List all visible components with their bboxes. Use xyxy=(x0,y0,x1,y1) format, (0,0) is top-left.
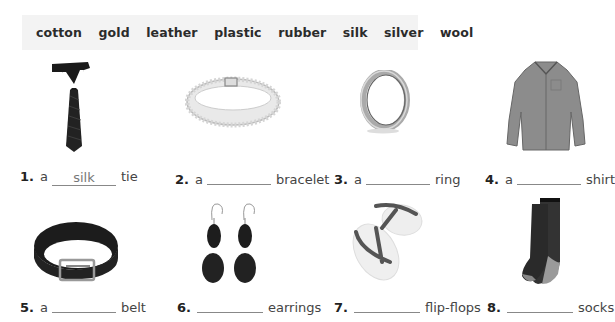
answer-blank[interactable] xyxy=(207,170,271,185)
item-number: 6. xyxy=(177,300,191,315)
word-bank-item: silver xyxy=(384,25,423,40)
item-number: 2. xyxy=(175,172,189,187)
item-article: a xyxy=(505,172,513,187)
belt-icon xyxy=(32,218,124,292)
word-bank-item: rubber xyxy=(278,25,326,40)
answer-blank[interactable] xyxy=(507,298,573,313)
answer-blank[interactable] xyxy=(52,298,116,313)
item-noun: bracelet xyxy=(276,172,329,187)
answer-blank[interactable] xyxy=(197,298,263,313)
item-number: 8. xyxy=(487,300,501,315)
ring-icon xyxy=(358,70,414,140)
item-noun: earrings xyxy=(268,300,321,315)
item-noun: tie xyxy=(121,169,138,184)
shirt-icon xyxy=(505,60,587,156)
word-bank-item: silk xyxy=(343,25,368,40)
flip-flops-icon xyxy=(346,200,428,288)
item-noun: belt xyxy=(121,300,146,315)
word-bank-item: leather xyxy=(146,25,197,40)
item-article: a xyxy=(354,172,362,187)
item-article: a xyxy=(195,172,203,187)
item-article: a xyxy=(40,300,48,315)
bracelet-icon xyxy=(185,76,281,132)
word-bank: cotton gold leather plastic rubber silk … xyxy=(22,15,418,50)
item-noun: ring xyxy=(435,172,460,187)
exercise-item-7: 7. flip-flops xyxy=(334,297,481,315)
answer-blank[interactable] xyxy=(366,170,430,185)
answer-blank[interactable] xyxy=(354,298,420,313)
item-noun: socks xyxy=(578,300,614,315)
socks-icon xyxy=(518,196,568,292)
item-number: 5. xyxy=(20,300,34,315)
exercise-item-5: 5. a belt xyxy=(20,297,146,315)
answer-blank[interactable] xyxy=(517,170,581,185)
word-bank-item: wool xyxy=(440,25,473,40)
item-noun: shirt xyxy=(586,172,615,187)
exercise-item-3: 3. a ring xyxy=(334,169,460,187)
exercise-item-2: 2. a bracelet xyxy=(175,169,329,187)
word-bank-item: plastic xyxy=(214,25,261,40)
item-number: 1. xyxy=(20,169,34,184)
item-article: a xyxy=(40,169,48,184)
tie-icon xyxy=(48,60,98,156)
word-bank-item: gold xyxy=(99,25,130,40)
exercise-item-6: 6. earrings xyxy=(177,297,321,315)
item-number: 7. xyxy=(334,300,348,315)
item-noun: flip-flops xyxy=(425,300,481,315)
exercise-item-8: 8. socks xyxy=(487,297,614,315)
exercise-item-4: 4. a shirt xyxy=(485,169,615,187)
exercise-item-1: 1. a silk tie xyxy=(20,169,138,185)
item-number: 4. xyxy=(485,172,499,187)
word-bank-item: cotton xyxy=(36,25,82,40)
answer-blank[interactable]: silk xyxy=(52,171,116,186)
item-number: 3. xyxy=(334,172,348,187)
earrings-icon xyxy=(198,198,260,294)
